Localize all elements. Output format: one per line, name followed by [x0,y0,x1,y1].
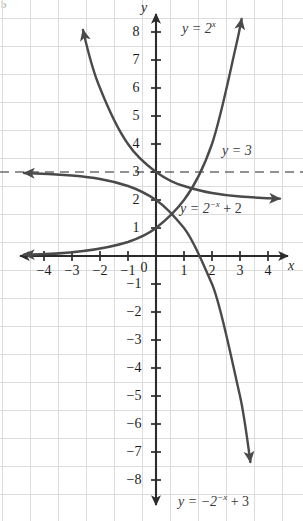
label-negdecay-lhs: y = −2 [178,494,217,509]
label-exp-growth-exp: x [212,19,216,29]
label-negdecay-exp: −x [217,492,227,502]
curve-exponential-2-to-neg-x-plus-2 [83,30,280,199]
y-tick-label-1: 1 [126,221,146,235]
x-tick-label-1: 1 [174,264,194,278]
y-tick-label--4: −4 [121,361,147,375]
y-tick-label--8: −8 [121,473,147,487]
y-tick-label-7: 7 [126,53,146,67]
y-tick-label-2: 2 [126,193,146,207]
label-asymptote-text: y = 3 [222,143,252,158]
y-tick-label--7: −7 [121,445,147,459]
label-exp-growth-lhs: y = 2 [182,21,212,36]
x-tick-label-4: 4 [258,264,278,278]
x-tick-label--3: −3 [61,264,83,278]
label-decay-lhs: y = 2 [180,201,210,216]
exponential-functions-figure: b [0,0,303,521]
y-tick-label-6: 6 [126,81,146,95]
x-tick-label-2: 2 [202,264,222,278]
label-asymptote-y3: y = 3 [222,143,252,159]
y-tick-label-3: 3 [126,165,146,179]
label-negdecay-tail: + 3 [227,494,249,509]
y-tick-label--6: −6 [121,417,147,431]
x-tick-label--4: −4 [33,264,55,278]
y-tick-label--3: −3 [121,333,147,347]
x-tick-label--2: −2 [89,264,111,278]
label-curve-2-to-x: y = 2x [182,21,216,37]
y-tick-label--2: −2 [121,305,147,319]
y-tick-label-4: 4 [126,137,146,151]
label-decay-exp: −x [210,199,220,209]
x-axis-name: x [288,258,294,274]
y-axis-name: y [141,0,147,16]
label-curve-2-to-neg-x-plus-2: y = 2−x + 2 [180,201,242,217]
y-tick-label--5: −5 [121,389,147,403]
x-tick-label-3: 3 [230,264,250,278]
y-tick-label-8: 8 [126,25,146,39]
y-tick-label--1: −1 [121,277,147,291]
origin-label: 0 [136,261,152,275]
label-curve-neg-2-to-neg-x-plus-3: y = −2−x + 3 [178,494,249,510]
y-tick-label-5: 5 [126,109,146,123]
label-decay-tail: + 2 [220,201,242,216]
